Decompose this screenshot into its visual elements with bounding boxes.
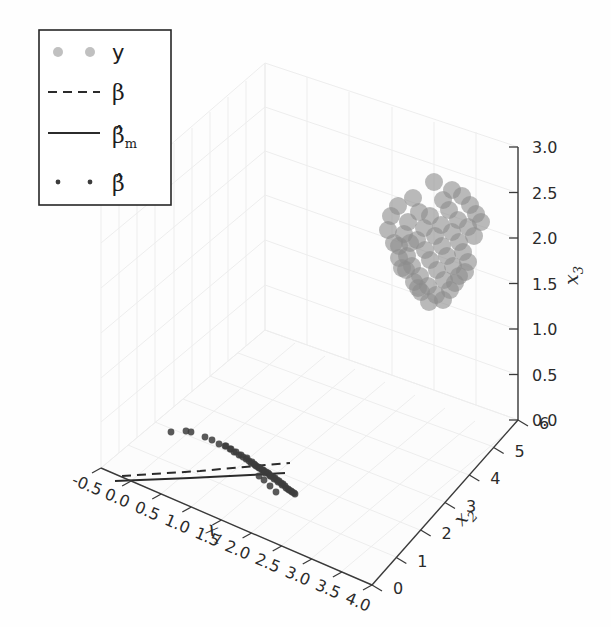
x1-tick-label: -0.5 [69,470,105,500]
data-point-y [401,234,419,252]
x1-tick-label: 0.0 [102,484,133,511]
x1-tick-label: 1.0 [162,510,193,537]
data-point-betahat [267,483,274,490]
x2-tick [421,530,431,536]
data-point-betahat [188,429,195,436]
x1-tick [152,494,161,499]
legend-marker-smalldot-icon [88,180,93,185]
data-point-betahat [168,429,175,436]
legend-label-betahat: β̂ [112,171,125,196]
data-point-y [393,259,411,277]
x3-tick-label: 0.5 [532,366,557,385]
x2-tick-label: 5 [515,442,525,461]
x1-tick-label: 2.5 [252,549,283,576]
x2-tick-label: 4 [490,469,500,488]
x3-tick-label: 0.0 [532,411,557,430]
x2-tick-label: 0 [393,579,403,598]
data-point-betahat [202,434,209,441]
x3-tick-label: 1.5 [532,275,557,294]
data-point-betahat [223,443,230,450]
x1-tick [243,533,252,538]
x2-tick-label: 2 [442,524,452,543]
x1-tick [363,585,372,590]
x3-tick-label: 1.0 [532,320,557,339]
x3-tick-label: 2.0 [532,229,557,248]
x3-axis-title: x3 [560,266,586,285]
figure-canvas: -0.50.00.51.01.52.02.53.03.54.0 0123456 … [0,0,611,627]
data-point-y [465,227,483,245]
legend-marker-dot-icon [85,47,95,57]
x1-tick [92,468,101,473]
data-point-betahat [216,441,223,448]
x2-tick [396,558,406,564]
x1-tick [333,572,342,577]
3d-scatter-plot: -0.50.00.51.01.52.02.53.03.54.0 0123456 … [0,0,611,627]
data-point-betahat [244,455,251,462]
x2-tick [469,475,479,481]
data-point-y [425,173,443,191]
x3-axis-tick-labels: 0.00.51.01.52.02.53.0 [532,138,557,430]
x1-tick [122,481,131,486]
x1-tick [182,507,191,512]
legend-marker-dot-icon [53,47,63,57]
x1-tick-label: 2.0 [222,536,253,563]
x1-tick-label: 4.0 [343,588,374,615]
x1-tick-label: 0.5 [132,497,163,524]
legend-label-y: y [112,41,124,65]
data-point-y [456,263,474,281]
x1-tick [303,559,312,564]
data-point-y [409,279,427,297]
x2-tick [445,503,455,509]
legend-marker-smalldot-icon [56,180,61,185]
legend[interactable]: y β β̂m β̂ [39,30,171,205]
data-point-y [434,291,452,309]
x1-tick-label: 3.5 [313,575,344,602]
data-point-betahat [256,473,263,480]
x2-tick [372,585,382,591]
x2-tick [518,420,528,426]
x3-tick-label: 3.0 [532,138,557,157]
legend-label-beta: β [112,80,125,105]
x2-tick [494,448,504,454]
data-point-betahat [209,437,216,444]
x1-tick-label: 3.0 [282,562,313,589]
x2-tick-label: 1 [417,552,427,571]
data-point-betahat [291,490,298,497]
x1-tick [273,546,282,551]
data-point-betahat [273,489,280,496]
x3-tick-label: 2.5 [532,184,557,203]
